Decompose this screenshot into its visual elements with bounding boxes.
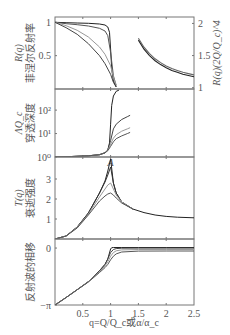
y-axis-label: T(q): [13, 189, 25, 207]
y-tick-label: 0.5: [39, 50, 52, 61]
right-y-axis-label: R(q)(2Q/Q_c)^4: [211, 20, 223, 86]
right-y-tick-label: 2: [198, 18, 203, 29]
panel-reflectivity: 10.5R(q)菲涅尔反射率21.51R(q)(2Q/Q_c)^4: [13, 17, 223, 93]
right-y-tick-label: 1: [198, 82, 203, 93]
right-series-line-normalized-1: [138, 40, 194, 77]
x-tick-label: 0.5: [77, 308, 90, 319]
panel-penetration-depth: 10²10¹10⁰ΛQ_c穿透深度A: [13, 89, 194, 168]
series-line-curve-2: [55, 115, 130, 157]
series-line-curve-4: [55, 22, 116, 87]
y-tick-label: 10⁰: [37, 152, 51, 163]
y-axis-label: 反射波的相移: [24, 242, 36, 302]
series-line-curve-2: [55, 22, 116, 85]
x-axis-label: q=Q/Q_c或α/α_c: [89, 317, 160, 328]
series-group: [55, 90, 130, 157]
y-tick-label: 3: [46, 174, 51, 185]
series-line-curve-4: [55, 132, 130, 157]
y-axis-label: 穿透深度: [24, 103, 36, 143]
panel-frame: [55, 239, 194, 305]
series-line-curve-3: [55, 183, 133, 239]
y-axis-label: R(q): [13, 43, 25, 62]
series-line-curve-1: [55, 159, 194, 239]
y-tick-label: 1: [46, 17, 51, 28]
panel-frame: [55, 89, 194, 157]
y-axis-label: ΛQ_c: [13, 111, 24, 135]
y-axis-label: 菲涅尔反射率: [24, 23, 36, 83]
right-series-line-normalized-2: [138, 38, 194, 75]
panel-frame: [55, 157, 194, 239]
series-line-curve-2: [55, 248, 194, 305]
y-tick-label: 10²: [38, 105, 51, 116]
y-axis-label: 衰逝强度: [24, 178, 36, 218]
panel-phase-shift: 0−π反射波的相移0.511.522.5: [24, 239, 200, 319]
series-group: [55, 22, 194, 87]
x-tick-label: 2.5: [188, 308, 201, 319]
y-tick-label: 2: [46, 194, 51, 205]
series-line-curve-3: [55, 22, 116, 85]
series-line-curve-1: [55, 248, 194, 306]
right-y-tick-label: 1.5: [198, 50, 211, 61]
series-group: [55, 159, 194, 239]
series-line-curve-4: [55, 193, 133, 239]
series-line-curve-1: [55, 22, 116, 87]
series-group: [55, 248, 194, 306]
y-tick-label: 10¹: [38, 128, 51, 139]
panel-evanescent-intensity: 321T(q)衰逝强度: [13, 157, 194, 239]
panel-frame: [55, 17, 194, 89]
x-tick-label: 2: [164, 308, 169, 319]
series-line-curve-3: [55, 250, 194, 306]
y-tick-label: −π: [40, 300, 51, 311]
series-line-curve-3: [55, 128, 130, 157]
y-tick-label: 0: [46, 243, 51, 254]
figure: 10.5R(q)菲涅尔反射率21.51R(q)(2Q/Q_c)^410²10¹1…: [0, 0, 230, 335]
series-line-curve-4: [55, 251, 194, 305]
y-tick-label: 1: [46, 214, 51, 225]
